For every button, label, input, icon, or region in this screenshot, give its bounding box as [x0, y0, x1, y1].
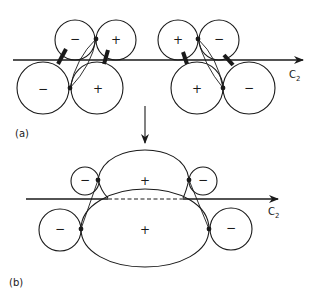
c2-axis-label: C2 — [268, 206, 279, 220]
node-dot-top — [94, 37, 99, 42]
sign-upper-left-circle: − — [80, 173, 90, 187]
sign-top-left: + — [173, 33, 183, 47]
sign-bottom-right: + — [93, 82, 103, 96]
connection-curve-2 — [198, 39, 223, 88]
sign-lower-lobe: + — [140, 223, 150, 237]
sign-lower-right-circle: − — [226, 221, 236, 235]
left-tangent-line — [81, 180, 98, 229]
diagram-canvas: C2 − + − + + − — [0, 0, 317, 290]
node-dot-bottom — [68, 86, 73, 91]
left-orbital-group: − + − + — [17, 20, 136, 114]
node-dot-bottom — [221, 86, 226, 91]
sign-top-left: − — [70, 32, 80, 46]
connection-curve-2 — [70, 39, 96, 88]
panel-b: C2 + + − − − − (b) — [9, 150, 279, 288]
diagram-figure: C2 − + − + + − — [0, 0, 317, 290]
sign-top-right: − — [214, 32, 224, 46]
connection-curve-1 — [198, 39, 223, 88]
sign-top-right: + — [111, 33, 121, 47]
bond-bar-left — [183, 52, 187, 64]
right-tangent-line — [189, 180, 209, 229]
c2-axis-label: C2 — [289, 69, 300, 83]
connection-curve-1 — [70, 39, 96, 88]
bond-bar-right — [104, 50, 108, 64]
sign-bottom-left: − — [38, 82, 48, 96]
sign-bottom-right: − — [244, 81, 254, 95]
panel-b-label: (b) — [9, 277, 23, 288]
node-dot-lower-right — [207, 227, 212, 232]
sign-upper-right-circle: − — [198, 173, 208, 187]
sign-lower-left-circle: − — [55, 222, 65, 236]
right-orbital-group: + − + − — [158, 20, 275, 114]
panel-a: C2 − + − + + − — [13, 20, 303, 139]
node-dot-upper-right — [187, 178, 192, 183]
node-dot-lower-left — [79, 227, 84, 232]
sign-upper-lobe: + — [140, 174, 150, 188]
panel-a-label: (a) — [15, 128, 29, 139]
sign-bottom-left: + — [192, 82, 202, 96]
node-dot-top — [196, 37, 201, 42]
bond-bar-left — [58, 49, 66, 64]
node-dot-upper-left — [96, 178, 101, 183]
